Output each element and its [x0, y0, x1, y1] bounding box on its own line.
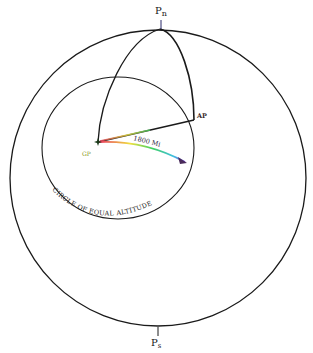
south-pole-label: Ps: [151, 337, 162, 350]
outer-circle: [10, 30, 306, 326]
gp-star-icon: [94, 138, 102, 146]
gp-label: GP: [82, 150, 91, 157]
arrowhead-icon: [178, 157, 187, 164]
meridian-to-gp: [98, 29, 160, 142]
circle-caption: CIRCLE OF EQUAL ALTITUDE: [51, 186, 154, 218]
distance-arrow: [98, 142, 185, 162]
north-pole-label: Pn: [155, 5, 167, 18]
meridian-to-ap: [160, 29, 194, 120]
ap-label: AP: [196, 112, 207, 120]
celestial-diagram: Pn Ps AP GP 1800 Mi CIRCLE OF EQUAL ALTI…: [0, 0, 313, 353]
